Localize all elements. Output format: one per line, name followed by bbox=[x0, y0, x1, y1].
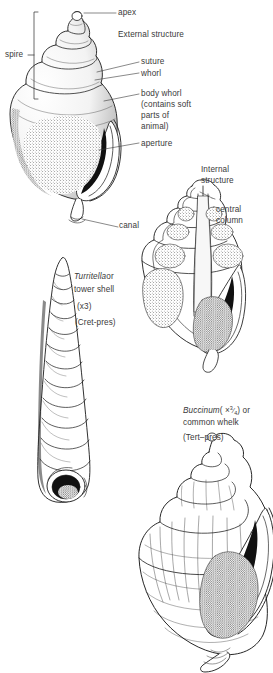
label-apex: apex bbox=[118, 8, 136, 18]
caption-buccinum-common-name: common whelk bbox=[183, 418, 239, 428]
label-canal: canal bbox=[119, 221, 139, 231]
label-body-whorl-note-3: animal) bbox=[141, 122, 169, 132]
figure-canvas: apex External structure spire suture who… bbox=[0, 0, 273, 673]
caption-turritella-line-1: Turritellaor bbox=[74, 272, 114, 282]
label-aperture: aperture bbox=[141, 139, 172, 149]
caption-buccinum-line-1: Buccinum( ×3⁄4) or bbox=[183, 403, 250, 419]
label-spire: spire bbox=[5, 50, 23, 60]
external-structure-shell bbox=[10, 12, 121, 224]
heading-internal-structure-line-1: Internal bbox=[201, 165, 229, 175]
shell-diagram-svg bbox=[0, 0, 273, 673]
buccinum-genus: Buccinum bbox=[183, 406, 220, 415]
label-suture: suture bbox=[141, 57, 164, 67]
heading-external-structure: External structure bbox=[118, 30, 184, 40]
buccinum-shell bbox=[139, 433, 273, 672]
label-body-whorl-note-1: (contains soft bbox=[141, 100, 191, 110]
buccinum-mag-numerator: 3 bbox=[230, 405, 233, 411]
turritella-conjunction: or bbox=[106, 272, 113, 281]
label-body-whorl-note-2: parts of bbox=[141, 111, 169, 121]
caption-turritella-range: (Cret-pres) bbox=[75, 318, 116, 328]
caption-turritella-common-name: tower shell bbox=[74, 285, 114, 295]
label-central-column-line-1: central bbox=[216, 205, 241, 215]
heading-internal-structure-line-2: structure bbox=[201, 176, 234, 186]
label-central-column-line-2: column bbox=[216, 216, 243, 226]
label-whorl: whorl bbox=[141, 69, 161, 79]
turritella-genus: Turritella bbox=[74, 272, 106, 281]
caption-buccinum-range: (Tert–pres) bbox=[183, 433, 224, 443]
buccinum-mag-close: ) or bbox=[237, 406, 250, 415]
buccinum-mag-open: ( × bbox=[220, 406, 230, 415]
label-body-whorl: body whorl bbox=[141, 89, 182, 99]
caption-turritella-magnification: (x3) bbox=[77, 302, 92, 312]
